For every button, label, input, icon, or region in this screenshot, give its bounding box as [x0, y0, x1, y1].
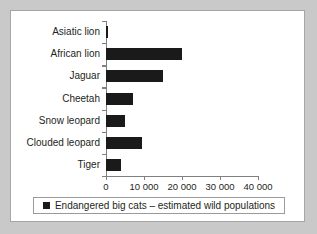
y-tick — [102, 21, 106, 22]
y-tick — [102, 132, 106, 133]
bar-row: Jaguar — [106, 70, 258, 82]
legend-swatch-icon — [43, 202, 50, 209]
bar — [106, 70, 163, 82]
bar-row: Snow leopard — [106, 115, 258, 127]
bar-row: Tiger — [106, 159, 258, 171]
x-tick-label: 10 000 — [129, 181, 158, 192]
x-tick-label: 0 — [103, 181, 108, 192]
bar-row: Asiatic lion — [106, 26, 258, 38]
chart-screenshot: Asiatic lionAfrican lionJaguarCheetahSno… — [0, 0, 317, 234]
category-label: Tiger — [78, 159, 100, 171]
y-tick — [102, 110, 106, 111]
y-tick — [102, 43, 106, 44]
chart-panel: Asiatic lionAfrican lionJaguarCheetahSno… — [10, 10, 305, 222]
bar — [106, 93, 133, 105]
bar — [106, 115, 125, 127]
bar-row: Clouded leopard — [106, 137, 258, 149]
plot-area: Asiatic lionAfrican lionJaguarCheetahSno… — [106, 21, 258, 176]
bar — [106, 137, 142, 149]
bar — [106, 26, 108, 38]
category-label: Asiatic lion — [52, 26, 100, 38]
x-tick-label: 40 000 — [243, 181, 272, 192]
y-tick — [102, 65, 106, 66]
category-label: Cheetah — [62, 93, 100, 105]
chart-legend: Endangered big cats – estimated wild pop… — [33, 197, 285, 214]
x-tick — [106, 176, 107, 180]
bar-row: Cheetah — [106, 93, 258, 105]
category-label: Clouded leopard — [27, 137, 100, 149]
category-label: Jaguar — [69, 70, 100, 82]
x-tick-label: 20 000 — [167, 181, 196, 192]
y-tick — [102, 87, 106, 88]
x-tick — [258, 176, 259, 180]
x-tick — [182, 176, 183, 180]
category-label: Snow leopard — [39, 115, 100, 127]
category-label: African lion — [51, 48, 100, 60]
bar — [106, 48, 182, 60]
x-tick — [144, 176, 145, 180]
x-tick-label: 30 000 — [205, 181, 234, 192]
bar — [106, 159, 121, 171]
y-tick — [102, 154, 106, 155]
x-tick — [220, 176, 221, 180]
legend-label: Endangered big cats – estimated wild pop… — [55, 200, 275, 211]
bar-row: African lion — [106, 48, 258, 60]
